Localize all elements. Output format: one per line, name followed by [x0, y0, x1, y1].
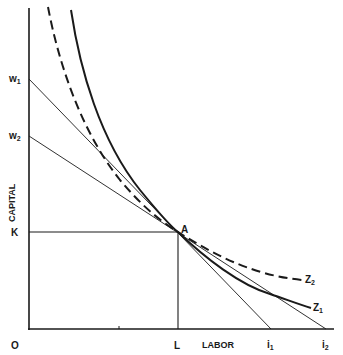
x-axis-label: LABOR — [202, 340, 234, 350]
isoquant-diagram: CAPITAL LABOR O K L A w1 w2 i1 i2 Z2 Z1 — [0, 0, 343, 355]
y-axis-label: CAPITAL — [7, 183, 17, 222]
z2-label: Z2 — [305, 274, 315, 286]
isoquant-z2-dashed — [48, 7, 302, 280]
labor-level-label: L — [174, 340, 180, 351]
z1-label: Z1 — [313, 302, 323, 314]
origin-label: O — [11, 340, 19, 351]
w2-label: w2 — [8, 130, 21, 142]
isocost-line-w1-i1 — [29, 79, 271, 329]
i1-label: i1 — [267, 339, 274, 351]
point-a-label: A — [181, 224, 188, 235]
w1-label: w1 — [8, 73, 21, 85]
capital-level-label: K — [11, 227, 19, 238]
i2-label: i2 — [322, 339, 329, 351]
